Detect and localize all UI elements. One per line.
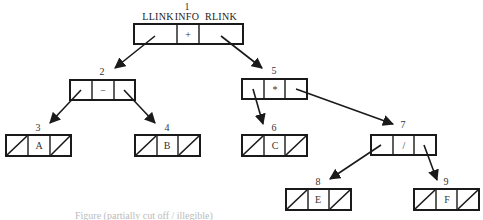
node-info: + bbox=[185, 29, 191, 40]
node-1: 1 + bbox=[134, 1, 243, 44]
node-label: 6 bbox=[272, 122, 277, 133]
node-5: 5 * bbox=[242, 65, 307, 99]
edge-2-to-3-arrow bbox=[50, 90, 81, 123]
node-label: 9 bbox=[444, 176, 449, 187]
info-header: INFO bbox=[175, 11, 200, 22]
node-info: − bbox=[100, 85, 106, 96]
node-4: 4 B bbox=[135, 122, 200, 156]
rlink-header: RLINK bbox=[205, 11, 238, 22]
edge-7-to-8-arrow bbox=[330, 145, 381, 179]
node-label: 1 bbox=[185, 1, 190, 12]
node-8: 8 E bbox=[286, 176, 351, 210]
node-info: B bbox=[164, 140, 171, 151]
node-label: 7 bbox=[401, 119, 406, 130]
node-label: 8 bbox=[316, 176, 321, 187]
node-6: 6 C bbox=[242, 122, 307, 156]
node-info: * bbox=[273, 84, 278, 95]
node-info: A bbox=[35, 140, 43, 151]
edge-2-to-4-arrow bbox=[124, 90, 155, 123]
linked-binary-tree-diagram: LLINK INFO RLINK 1 + 2 − 3 A 4 B bbox=[0, 0, 483, 220]
node-label: 5 bbox=[272, 65, 277, 76]
node-info: E bbox=[315, 194, 321, 205]
edge-5-to-7-arrow bbox=[296, 89, 393, 124]
node-info: C bbox=[272, 140, 279, 151]
node-info: / bbox=[403, 140, 406, 151]
node-9: 9 F bbox=[414, 176, 479, 210]
node-label: 4 bbox=[165, 122, 170, 133]
node-2: 2 − bbox=[70, 66, 135, 100]
node-3: 3 A bbox=[6, 122, 71, 156]
node-info: F bbox=[444, 194, 450, 205]
figure-caption: Figure (partially cut off / illegible) bbox=[75, 210, 213, 220]
llink-header: LLINK bbox=[142, 11, 174, 22]
node-label: 2 bbox=[100, 66, 105, 77]
node-label: 3 bbox=[36, 122, 41, 133]
